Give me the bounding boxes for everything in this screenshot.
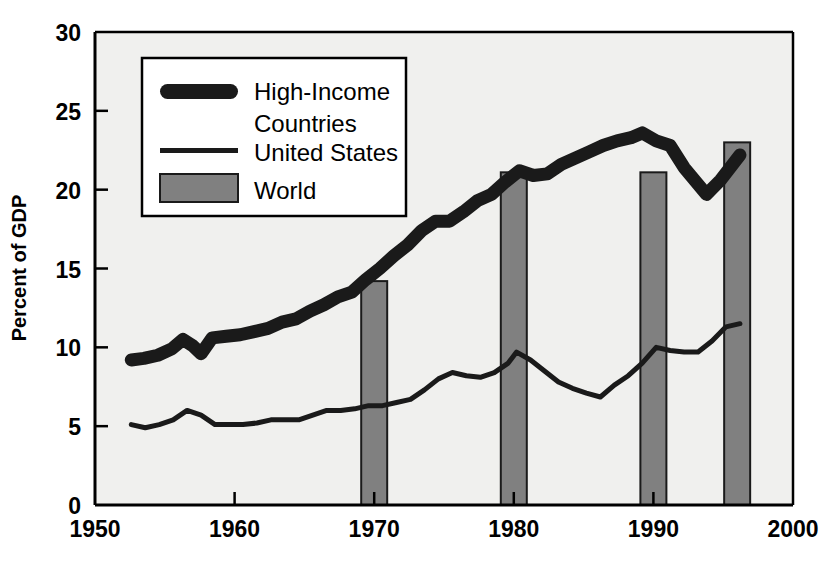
legend-label-world: World bbox=[254, 177, 316, 204]
legend-label-united-states: United States bbox=[254, 139, 398, 166]
gdp-investment-chart: 302520151050 195019601970198019902000 Pe… bbox=[0, 0, 834, 568]
x-tick-label: 1970 bbox=[349, 516, 400, 542]
legend-label-high-income-line1: High-Income bbox=[254, 78, 390, 105]
world-bar bbox=[361, 281, 387, 505]
x-tick-label: 2000 bbox=[767, 516, 818, 542]
gray-bar-swatch-icon bbox=[160, 174, 238, 202]
y-tick-label: 20 bbox=[55, 178, 81, 204]
y-tick-label: 5 bbox=[68, 414, 81, 440]
world-bar bbox=[640, 172, 666, 505]
chart-legend: High-Income Countries United States Worl… bbox=[142, 58, 406, 216]
legend-label-high-income-line2: Countries bbox=[254, 110, 357, 137]
x-tick-label: 1990 bbox=[628, 516, 679, 542]
chart-figure: 302520151050 195019601970198019902000 Pe… bbox=[0, 0, 834, 568]
thick-line-swatch-icon bbox=[160, 84, 238, 99]
x-tick-label: 1960 bbox=[209, 516, 260, 542]
y-tick-label: 10 bbox=[55, 335, 81, 361]
y-tick-label: 15 bbox=[55, 257, 81, 283]
thin-line-swatch-icon bbox=[160, 148, 238, 153]
x-tick-label: 1950 bbox=[69, 516, 120, 542]
world-bar bbox=[501, 172, 527, 505]
x-tick-label: 1980 bbox=[488, 516, 539, 542]
y-tick-label: 25 bbox=[55, 99, 81, 125]
y-axis-title: Percent of GDP bbox=[8, 195, 30, 342]
y-tick-label: 30 bbox=[55, 20, 81, 46]
